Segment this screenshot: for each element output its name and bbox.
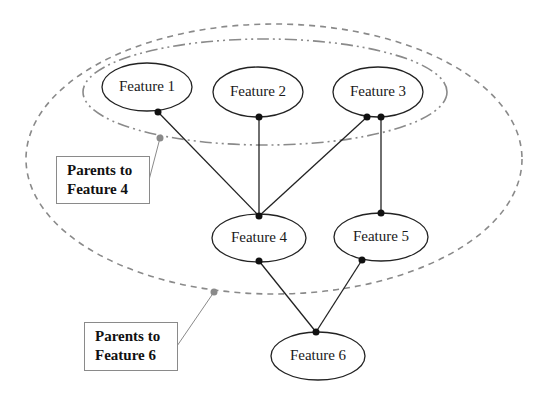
edge-feature-3-to-feature-4: [259, 117, 367, 216]
endpoint-feature-4-in: [256, 213, 263, 220]
node-feature-5-label: Feature 5: [353, 228, 409, 244]
callout-parents-to-feature-4-line2: Feature 4: [67, 180, 149, 199]
endpoint-feature-1-out: [155, 109, 162, 116]
node-feature-2[interactable]: Feature 2: [213, 67, 303, 117]
node-feature-4-label: Feature 4: [231, 229, 288, 245]
node-feature-6[interactable]: Feature 6: [271, 332, 365, 380]
callout-leader-feature-4: [149, 138, 160, 180]
node-feature-5[interactable]: Feature 5: [334, 213, 428, 261]
endpoint-feature-4-out: [256, 258, 263, 265]
node-feature-1-label: Feature 1: [119, 78, 175, 94]
callout-parents-to-feature-4-line1: Parents to: [67, 161, 149, 180]
endpoint-feature-3-out-b: [378, 114, 385, 121]
callout-parents-to-feature-6-line1: Parents to: [95, 327, 177, 346]
callout-parents-to-feature-6: Parents to Feature 6: [84, 322, 178, 371]
callout-anchor-feature-6: [211, 289, 218, 296]
edge-feature-1-to-feature-4: [158, 112, 259, 216]
endpoint-feature-5-in: [378, 210, 385, 217]
node-feature-4[interactable]: Feature 4: [212, 214, 306, 262]
endpoint-feature-3-out-a: [364, 114, 371, 121]
edge-feature-4-to-feature-6: [259, 261, 316, 332]
node-feature-6-label: Feature 6: [290, 347, 347, 363]
endpoint-feature-5-out: [359, 257, 366, 264]
endpoint-feature-2-out: [256, 114, 263, 121]
node-feature-3[interactable]: Feature 3: [333, 67, 423, 117]
node-feature-3-label: Feature 3: [350, 83, 406, 99]
callout-leader-feature-6: [177, 292, 214, 346]
callout-anchor-feature-4: [157, 135, 164, 142]
node-feature-2-label: Feature 2: [230, 83, 286, 99]
endpoint-feature-6-in: [313, 329, 320, 336]
edge-feature-5-to-feature-6: [316, 260, 362, 332]
node-feature-1[interactable]: Feature 1: [102, 63, 192, 111]
callout-parents-to-feature-6-line2: Feature 6: [95, 346, 177, 365]
callout-parents-to-feature-4: Parents to Feature 4: [56, 156, 150, 204]
